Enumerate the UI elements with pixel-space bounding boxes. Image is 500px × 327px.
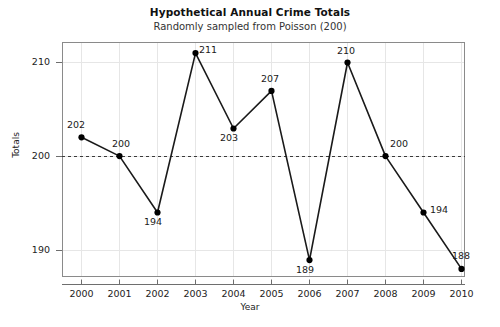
point-value-label-2007: 210 <box>337 45 355 56</box>
x-axis-ticks <box>62 280 465 285</box>
y-tick-label-190: 190 <box>10 244 50 255</box>
data-point[interactable] <box>230 125 236 131</box>
chart-container: Hypothetical Annual Crime Totals Randoml… <box>0 0 500 327</box>
point-value-label-2009: 194 <box>430 204 448 215</box>
data-point[interactable] <box>268 88 274 94</box>
plot-area <box>0 0 500 327</box>
data-point[interactable] <box>154 209 160 215</box>
data-point[interactable] <box>458 266 464 272</box>
point-value-label-2005: 207 <box>261 73 279 84</box>
x-tick-label-2010: 2010 <box>440 288 484 299</box>
data-point[interactable] <box>116 153 122 159</box>
y-axis-ticks <box>56 63 62 251</box>
y-tick-label-210: 210 <box>10 56 50 67</box>
point-value-label-2003: 211 <box>199 44 217 55</box>
data-point[interactable] <box>78 134 84 140</box>
point-value-label-2010: 188 <box>452 250 470 261</box>
y-tick-label-200: 200 <box>10 150 50 161</box>
point-value-label-2006: 189 <box>296 264 314 275</box>
data-point[interactable] <box>420 209 426 215</box>
point-value-label-2001: 200 <box>112 138 130 149</box>
point-value-label-2008: 200 <box>390 138 408 149</box>
data-point[interactable] <box>192 50 198 56</box>
data-point[interactable] <box>382 153 388 159</box>
data-point[interactable] <box>306 257 312 263</box>
data-point[interactable] <box>344 59 350 65</box>
point-value-label-2002: 194 <box>144 216 162 227</box>
point-value-label-2004: 203 <box>220 132 238 143</box>
point-value-label-2000: 202 <box>67 119 85 130</box>
